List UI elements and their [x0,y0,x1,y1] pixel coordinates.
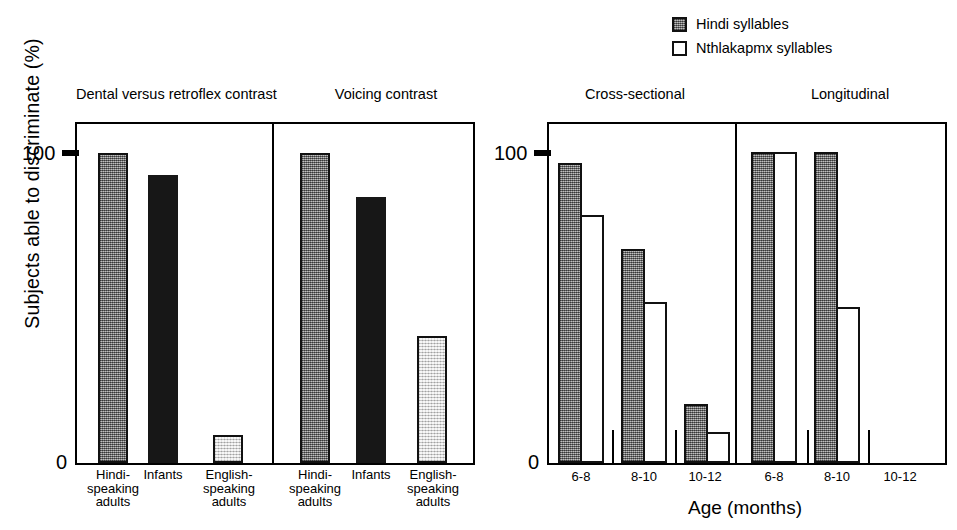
x-label-voicing-infants: Infants [339,468,403,482]
panel-header-longitudinal: Longitudinal [770,86,930,102]
panel-header-cross-sectional: Cross-sectional [545,86,725,102]
bar-long-8-10-nthlakapmx [836,307,860,463]
open-white-swatch-icon [672,41,687,56]
bar-voicing-infants [356,197,386,463]
bar-voicing-english-adults [417,336,447,463]
y-tick-mark-100-left [62,150,79,156]
x-label-cross-6-8: 6-8 [549,470,613,484]
bar-cross-6-8-hindi [558,163,582,463]
x-label-dental-english-adults: English- speaking adults [193,468,265,509]
y-tick-label-0-right: 0 [528,452,539,472]
bar-dental-hindi-adults [98,153,128,463]
legend-label-nthlakapmx: Nthlakapmx syllables [696,40,832,56]
y-tick-label-0-left: 0 [56,452,67,472]
bar-cross-8-10-hindi [621,249,645,463]
left-panel-frame [75,122,475,465]
bar-long-6-8-nthlakapmx [773,152,797,463]
right-panel-frame [547,122,947,465]
x-label-long-8-10: 8-10 [805,470,869,484]
y-axis-title: Subjects able to discriminate (%) [21,4,44,364]
x-tick-cross-1 [612,430,614,463]
x-label-dental-infants: Infants [131,468,195,482]
legend-entry-nthlakapmx: Nthlakapmx syllables [672,40,832,56]
x-tick-long-2 [868,430,870,463]
bar-cross-10-12-hindi [684,404,708,463]
right-panel-divider [735,122,737,465]
bar-dental-infants [148,175,178,463]
x-label-voicing-english-adults: English- speaking adults [397,468,469,509]
x-label-long-6-8: 6-8 [742,470,806,484]
y-tick-mark-100-right [534,150,551,156]
x-tick-long-1 [807,430,809,463]
left-panel-divider [272,122,274,465]
x-label-cross-8-10: 8-10 [612,470,676,484]
panel-header-dental-retroflex: Dental versus retroflex contrast [76,86,266,102]
bar-long-8-10-hindi [814,152,838,463]
legend-entry-hindi: Hindi syllables [672,16,789,32]
panel-header-voicing: Voicing contrast [296,86,476,102]
figure-canvas: Subjects able to discriminate (%) Dental… [0,0,957,530]
bar-cross-8-10-nthlakapmx [643,302,667,463]
legend-label-hindi: Hindi syllables [696,16,789,32]
bar-long-6-8-hindi [751,152,775,463]
bar-cross-10-12-nthlakapmx [706,432,730,463]
bar-dental-english-adults [213,435,243,463]
bar-cross-6-8-nthlakapmx [580,215,604,463]
x-label-long-10-12: 10-12 [868,470,932,484]
x-label-cross-10-12: 10-12 [673,470,737,484]
x-axis-title: Age (months) [625,497,865,519]
bar-voicing-hindi-adults [300,153,330,463]
x-tick-cross-2 [675,430,677,463]
y-tick-label-100-right: 100 [494,143,527,163]
y-tick-label-100-left: 100 [22,143,55,163]
hindi-hatched-swatch-icon [672,17,687,32]
legend: Hindi syllables Nthlakapmx syllables [672,16,932,60]
